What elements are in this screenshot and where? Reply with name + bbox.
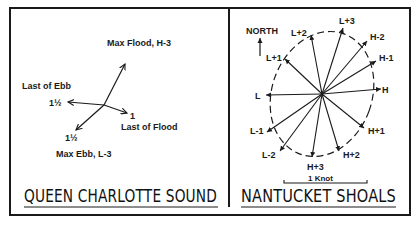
panel-title-nantucket-shoals: NANTUCKET SHOALS <box>241 186 396 206</box>
speed-last-of-flood: 1 <box>130 111 135 121</box>
vector-h <box>322 89 381 94</box>
vector-lplus3 <box>322 28 343 94</box>
vector-max-flood <box>104 64 125 105</box>
vector-label: L-1 <box>250 126 264 136</box>
north-label: NORTH <box>246 26 278 36</box>
speed-max-ebb: 1½ <box>65 133 78 143</box>
label-max-flood: Max Flood, H-3 <box>107 38 171 48</box>
outer-frame <box>10 8 410 215</box>
vector-hplus1 <box>322 94 364 128</box>
vector-max-ebb <box>76 105 104 130</box>
label-last-of-ebb: Last of Ebb <box>22 81 72 91</box>
vector-lminus1 <box>267 94 322 132</box>
vector-label: L+2 <box>291 28 307 38</box>
vector-hplus3 <box>312 94 322 157</box>
vector-hplus2 <box>322 94 339 151</box>
vector-label: H-1 <box>379 53 394 63</box>
vector-label: H <box>382 85 389 95</box>
vector-hminus2 <box>322 41 367 94</box>
panel-title-queen-charlotte: QUEEN CHARLOTTE SOUND <box>24 186 217 206</box>
vector-label: L+3 <box>339 16 355 26</box>
vector-hminus1 <box>322 61 376 94</box>
scale-label: 1 Knot <box>308 174 333 183</box>
vector-label: L-2 <box>262 150 276 160</box>
vector-last-of-ebb <box>68 102 104 105</box>
vector-label: H+2 <box>343 150 360 160</box>
label-max-ebb: Max Ebb, L-3 <box>56 149 112 159</box>
vector-l <box>266 94 322 95</box>
panel-queen-charlotte-sound: Max Flood, H-3 Last of Ebb 1½ 1 Last of … <box>22 38 218 207</box>
panel-nantucket-shoals: NORTH L+3H-2H-1HH+1H+2H+3L-2L-1LL+1L+2 1… <box>241 16 396 207</box>
vector-last-of-flood <box>104 105 127 113</box>
tidal-current-diagram: Max Flood, H-3 Last of Ebb 1½ 1 Last of … <box>0 0 419 227</box>
vector-lminus2 <box>280 94 322 151</box>
vector-label: L <box>255 91 261 101</box>
vector-label: L+1 <box>266 53 282 63</box>
vector-label: H+1 <box>368 126 385 136</box>
vector-label: H-2 <box>370 32 385 42</box>
vector-label: H+3 <box>307 162 324 172</box>
speed-last-of-ebb: 1½ <box>49 98 62 108</box>
label-last-of-flood: Last of Flood <box>121 122 178 132</box>
